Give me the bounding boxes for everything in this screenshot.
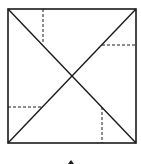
bottom-mark-icon	[68, 160, 74, 164]
diagram-canvas	[0, 0, 141, 164]
